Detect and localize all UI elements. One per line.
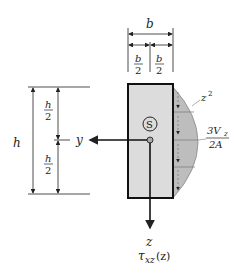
b-half-num: b (135, 53, 141, 64)
max-den: 2A (208, 139, 223, 150)
y-axis-label: y (75, 133, 83, 147)
centroid-label: S (146, 119, 153, 130)
cross-section-diagram: b b 2 b 2 h h 2 h 2 y z S z 2 3V z 2A τ … (0, 0, 238, 277)
b-label: b (146, 17, 154, 31)
tau-subscript: xz (145, 255, 155, 265)
parabola-label: z (200, 92, 207, 103)
b-half-den-2: 2 (156, 65, 162, 76)
max-num-sub: z (223, 130, 228, 138)
h-half-num: h (45, 99, 51, 110)
tau-argument: (z) (156, 250, 170, 263)
z-axis-label: z (145, 235, 153, 249)
centroid-point (147, 137, 153, 143)
tau-symbol: τ (138, 249, 145, 263)
b-half-den: 2 (135, 65, 141, 76)
parabola-exp: 2 (208, 90, 212, 98)
max-num: 3V (207, 125, 222, 136)
diagram: b b 2 b 2 h h 2 h 2 y z S z 2 3V z 2A τ … (0, 0, 238, 277)
h-half-den: 2 (45, 111, 51, 122)
h-half-num-2: h (45, 153, 51, 164)
b-half-num-2: b (156, 53, 162, 64)
h-half-den-2: 2 (45, 165, 51, 176)
h-label: h (13, 136, 21, 150)
shear-stress-parabola (173, 87, 198, 198)
